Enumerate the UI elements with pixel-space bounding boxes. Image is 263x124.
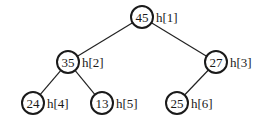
node-index-label: h[4] [47,96,69,111]
node-value: 27 [210,55,224,70]
heap-tree-diagram: 45 h[1] 35 h[2] 27 h[3] 24 h[4] 13 h [0,0,263,124]
node-index-label: h[3] [230,55,252,70]
node-index-label: h[2] [82,55,104,70]
edge-n2-n4 [40,70,61,94]
node-value: 13 [96,96,109,111]
node-value: 35 [62,55,75,70]
nodes-layer: 45 h[1] 35 h[2] 27 h[3] 24 h[4] 13 h [22,6,252,114]
edge-n1-n3 [151,23,206,57]
node-index-label: h[5] [116,96,138,111]
tree-node-6: 25 h[6] [166,92,213,114]
tree-canvas: 45 h[1] 35 h[2] 27 h[3] 24 h[4] 13 h [0,0,263,124]
tree-node-5: 13 h[5] [91,92,138,114]
node-value: 45 [136,10,149,25]
node-index-label: h[6] [191,96,213,111]
tree-node-4: 24 h[4] [22,92,69,114]
tree-node-3: 27 h[3] [205,51,252,73]
edge-n1-n2 [77,23,132,57]
node-index-label: h[1] [156,10,178,25]
edge-n3-n6 [185,70,209,95]
edge-n2-n5 [75,70,95,94]
node-value: 24 [27,96,41,111]
node-value: 25 [171,96,184,111]
